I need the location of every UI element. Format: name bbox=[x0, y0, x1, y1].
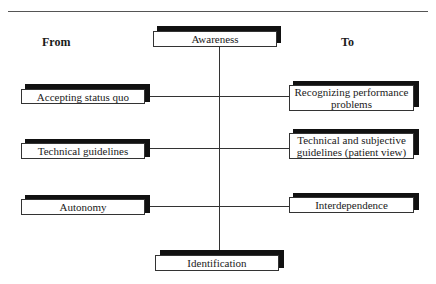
connector-row-1 bbox=[145, 96, 289, 97]
center-axis bbox=[219, 47, 220, 251]
to-box-technical-subjective-guidelines: Technical and subjective guidelines (pat… bbox=[289, 133, 414, 159]
to-box-interdependence: Interdependence bbox=[289, 197, 414, 213]
connector-row-3 bbox=[145, 206, 289, 207]
from-box-technical-guidelines: Technical guidelines bbox=[21, 143, 145, 159]
to-header: To bbox=[341, 35, 354, 50]
identification-box: Identification bbox=[155, 255, 279, 271]
awareness-box: Awareness bbox=[153, 31, 277, 47]
connector-row-2 bbox=[145, 148, 289, 149]
from-box-autonomy: Autonomy bbox=[21, 199, 145, 215]
from-box-accepting-status-quo: Accepting status quo bbox=[21, 89, 145, 104]
top-rule bbox=[8, 11, 428, 12]
to-box-recognizing-performance-problems: Recognizing performance problems bbox=[289, 85, 414, 111]
from-header: From bbox=[42, 35, 70, 50]
